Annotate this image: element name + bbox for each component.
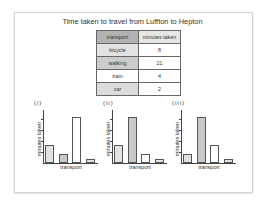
cell-transport: train bbox=[97, 70, 139, 83]
chart-title: Time taken to travel from Luffton to Hep… bbox=[0, 17, 265, 26]
bar-walking bbox=[59, 154, 68, 163]
bar-car bbox=[224, 159, 233, 163]
bar-bicycle bbox=[114, 145, 123, 163]
x-axis-label: transport bbox=[182, 164, 236, 170]
header-minutes: minutes taken bbox=[139, 31, 181, 44]
cell-minutes: 8 bbox=[139, 44, 181, 57]
y-axis bbox=[112, 110, 113, 163]
y-tick bbox=[179, 152, 181, 153]
y-tick bbox=[41, 130, 43, 131]
bar-bicycle bbox=[183, 154, 192, 163]
bar-walking bbox=[197, 117, 206, 163]
y-axis-label: minutes taken bbox=[36, 118, 42, 160]
table-row: train 4 bbox=[97, 70, 181, 83]
table-row: bicycle 8 bbox=[97, 44, 181, 57]
bar-walking bbox=[128, 117, 137, 163]
cell-minutes: 21 bbox=[139, 57, 181, 70]
y-tick bbox=[179, 141, 181, 142]
bar-bicycle bbox=[45, 145, 54, 163]
table-row: walking 21 bbox=[97, 57, 181, 70]
bar-chart-i: (i) minutes taken transport bbox=[34, 100, 104, 172]
chart-label: (iii) bbox=[172, 100, 185, 106]
table-row: car 2 bbox=[97, 83, 181, 96]
bar-car bbox=[86, 159, 95, 163]
y-tick bbox=[110, 130, 112, 131]
chart-label: (i) bbox=[34, 100, 42, 106]
y-tick bbox=[179, 130, 181, 131]
x-axis-label: transport bbox=[113, 164, 167, 170]
y-axis-label: minutes taken bbox=[174, 118, 180, 160]
bar-chart-iii: (iii) minutes taken transport bbox=[172, 100, 242, 172]
y-tick bbox=[41, 152, 43, 153]
cell-transport: car bbox=[97, 83, 139, 96]
cell-minutes: 4 bbox=[139, 70, 181, 83]
header-transport: transport bbox=[97, 31, 139, 44]
bar-chart-ii: (ii) minutes taken transport bbox=[103, 100, 173, 172]
cell-transport: bicycle bbox=[97, 44, 139, 57]
y-tick bbox=[110, 119, 112, 120]
y-tick bbox=[179, 119, 181, 120]
bar-train bbox=[210, 145, 219, 163]
y-tick bbox=[41, 141, 43, 142]
chart-label: (ii) bbox=[103, 100, 114, 106]
y-axis-label: minutes taken bbox=[105, 118, 111, 160]
x-axis-label: transport bbox=[44, 164, 98, 170]
bar-car bbox=[155, 159, 164, 163]
bar-train bbox=[72, 117, 81, 163]
y-axis bbox=[43, 110, 44, 163]
cell-minutes: 2 bbox=[139, 83, 181, 96]
bar-train bbox=[141, 154, 150, 163]
y-tick bbox=[110, 141, 112, 142]
y-tick bbox=[110, 152, 112, 153]
y-axis bbox=[181, 110, 182, 163]
cell-transport: walking bbox=[97, 57, 139, 70]
data-table: transport minutes taken bicycle 8 walkin… bbox=[96, 30, 181, 96]
y-tick bbox=[41, 119, 43, 120]
table-header-row: transport minutes taken bbox=[97, 31, 181, 44]
